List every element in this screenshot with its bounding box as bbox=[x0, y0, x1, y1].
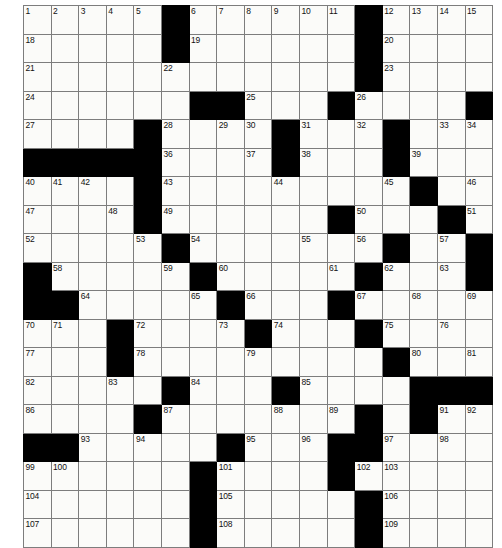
letter-cell[interactable] bbox=[244, 519, 272, 548]
letter-cell[interactable] bbox=[51, 490, 79, 519]
letter-cell[interactable] bbox=[355, 177, 383, 206]
letter-cell[interactable]: 72 bbox=[134, 319, 162, 348]
letter-cell[interactable] bbox=[272, 490, 300, 519]
letter-cell[interactable] bbox=[272, 519, 300, 548]
letter-cell[interactable] bbox=[355, 348, 383, 377]
letter-cell[interactable]: 24 bbox=[24, 91, 52, 120]
crossword-grid[interactable]: 1234567891011121314151819202122232425262… bbox=[23, 5, 493, 548]
letter-cell[interactable] bbox=[437, 91, 465, 120]
letter-cell[interactable]: 82 bbox=[24, 376, 52, 405]
letter-cell[interactable]: 93 bbox=[79, 433, 107, 462]
letter-cell[interactable] bbox=[79, 91, 107, 120]
letter-cell[interactable]: 23 bbox=[382, 63, 410, 92]
letter-cell[interactable]: 56 bbox=[355, 234, 383, 263]
letter-cell[interactable] bbox=[437, 148, 465, 177]
letter-cell[interactable] bbox=[51, 376, 79, 405]
letter-cell[interactable] bbox=[244, 234, 272, 263]
letter-cell[interactable] bbox=[272, 34, 300, 63]
letter-cell[interactable]: 55 bbox=[299, 234, 327, 263]
letter-cell[interactable] bbox=[244, 405, 272, 434]
letter-cell[interactable] bbox=[327, 120, 355, 149]
letter-cell[interactable] bbox=[217, 34, 245, 63]
letter-cell[interactable] bbox=[327, 34, 355, 63]
letter-cell[interactable]: 38 bbox=[299, 148, 327, 177]
letter-cell[interactable] bbox=[51, 519, 79, 548]
letter-cell[interactable] bbox=[272, 205, 300, 234]
letter-cell[interactable] bbox=[161, 91, 189, 120]
letter-cell[interactable]: 1 bbox=[24, 6, 52, 35]
letter-cell[interactable] bbox=[355, 376, 383, 405]
letter-cell[interactable] bbox=[134, 376, 162, 405]
letter-cell[interactable] bbox=[272, 63, 300, 92]
letter-cell[interactable]: 106 bbox=[382, 490, 410, 519]
letter-cell[interactable] bbox=[272, 234, 300, 263]
letter-cell[interactable]: 8 bbox=[244, 6, 272, 35]
letter-cell[interactable]: 100 bbox=[51, 462, 79, 491]
letter-cell[interactable] bbox=[382, 405, 410, 434]
letter-cell[interactable] bbox=[327, 519, 355, 548]
letter-cell[interactable] bbox=[217, 63, 245, 92]
letter-cell[interactable] bbox=[217, 177, 245, 206]
letter-cell[interactable] bbox=[299, 319, 327, 348]
letter-cell[interactable] bbox=[410, 319, 438, 348]
letter-cell[interactable]: 20 bbox=[382, 34, 410, 63]
letter-cell[interactable]: 31 bbox=[299, 120, 327, 149]
letter-cell[interactable] bbox=[79, 319, 107, 348]
letter-cell[interactable]: 57 bbox=[437, 234, 465, 263]
letter-cell[interactable]: 79 bbox=[244, 348, 272, 377]
letter-cell[interactable] bbox=[410, 234, 438, 263]
letter-cell[interactable] bbox=[51, 205, 79, 234]
letter-cell[interactable] bbox=[272, 462, 300, 491]
letter-cell[interactable] bbox=[217, 376, 245, 405]
letter-cell[interactable] bbox=[382, 205, 410, 234]
letter-cell[interactable] bbox=[134, 462, 162, 491]
letter-cell[interactable] bbox=[217, 205, 245, 234]
letter-cell[interactable] bbox=[106, 462, 134, 491]
letter-cell[interactable]: 109 bbox=[382, 519, 410, 548]
letter-cell[interactable] bbox=[410, 433, 438, 462]
letter-cell[interactable] bbox=[189, 120, 217, 149]
letter-cell[interactable]: 18 bbox=[24, 34, 52, 63]
letter-cell[interactable]: 7 bbox=[217, 6, 245, 35]
letter-cell[interactable]: 52 bbox=[24, 234, 52, 263]
letter-cell[interactable] bbox=[51, 348, 79, 377]
letter-cell[interactable] bbox=[106, 177, 134, 206]
letter-cell[interactable] bbox=[410, 120, 438, 149]
letter-cell[interactable]: 46 bbox=[465, 177, 493, 206]
letter-cell[interactable] bbox=[327, 177, 355, 206]
letter-cell[interactable]: 69 bbox=[465, 291, 493, 320]
letter-cell[interactable] bbox=[465, 490, 493, 519]
letter-cell[interactable] bbox=[382, 91, 410, 120]
letter-cell[interactable] bbox=[106, 63, 134, 92]
letter-cell[interactable] bbox=[161, 319, 189, 348]
letter-cell[interactable] bbox=[437, 462, 465, 491]
letter-cell[interactable]: 105 bbox=[217, 490, 245, 519]
letter-cell[interactable] bbox=[161, 291, 189, 320]
letter-cell[interactable] bbox=[327, 63, 355, 92]
letter-cell[interactable] bbox=[161, 462, 189, 491]
letter-cell[interactable] bbox=[272, 348, 300, 377]
letter-cell[interactable]: 86 bbox=[24, 405, 52, 434]
letter-cell[interactable] bbox=[410, 519, 438, 548]
letter-cell[interactable]: 5 bbox=[134, 6, 162, 35]
letter-cell[interactable] bbox=[299, 63, 327, 92]
letter-cell[interactable] bbox=[189, 148, 217, 177]
letter-cell[interactable] bbox=[106, 120, 134, 149]
letter-cell[interactable] bbox=[134, 519, 162, 548]
letter-cell[interactable] bbox=[410, 91, 438, 120]
letter-cell[interactable] bbox=[217, 405, 245, 434]
letter-cell[interactable]: 103 bbox=[382, 462, 410, 491]
letter-cell[interactable] bbox=[299, 205, 327, 234]
letter-cell[interactable] bbox=[382, 376, 410, 405]
letter-cell[interactable]: 78 bbox=[134, 348, 162, 377]
letter-cell[interactable] bbox=[437, 177, 465, 206]
letter-cell[interactable] bbox=[161, 519, 189, 548]
letter-cell[interactable]: 44 bbox=[272, 177, 300, 206]
letter-cell[interactable] bbox=[51, 405, 79, 434]
letter-cell[interactable] bbox=[410, 63, 438, 92]
letter-cell[interactable] bbox=[465, 519, 493, 548]
letter-cell[interactable] bbox=[189, 319, 217, 348]
letter-cell[interactable] bbox=[299, 462, 327, 491]
letter-cell[interactable]: 74 bbox=[272, 319, 300, 348]
letter-cell[interactable]: 73 bbox=[217, 319, 245, 348]
